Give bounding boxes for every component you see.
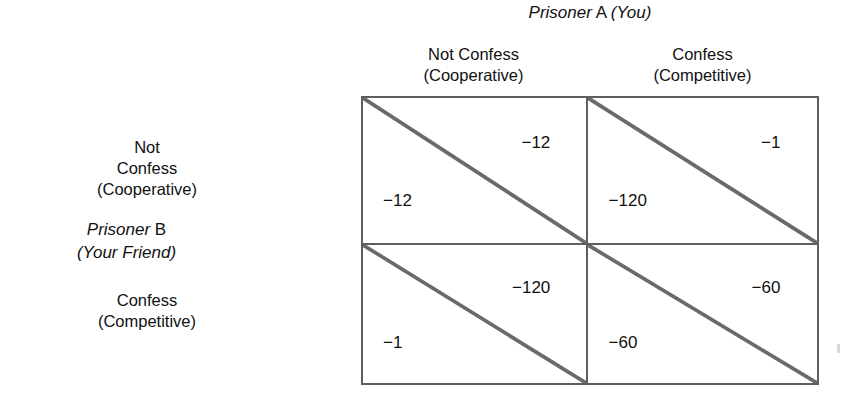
matrix-cell-notconfess-notconfess: −12 −12 [363,98,588,245]
payoff-value-column-player: −60 [752,278,781,298]
figure-canvas: Prisoner A (You) Not Confess (Cooperativ… [0,0,859,410]
column-header-confess: Confess (Competitive) [586,44,819,86]
payoff-value-row-player: −12 [383,191,412,211]
matrix-cell-confess-notconfess: −120 −1 [363,245,588,383]
column-header-0-line1: Not Confess [361,44,586,65]
payoff-value-row-player: −120 [609,191,647,211]
matrix-cell-notconfess-confess: −1 −120 [588,98,817,245]
column-player-title: Prisoner A (You) [361,2,819,24]
row-header-0-line3: (Cooperative) [42,179,252,200]
payoff-value-column-player: −12 [521,133,550,153]
row-player-qualifier: (Your Friend) [24,241,229,264]
cell-diagonal-divider [588,98,817,243]
column-player-letter: A [592,3,611,22]
row-header-0-line1: Not [42,137,252,158]
column-header-0-line2: (Cooperative) [361,65,586,86]
column-header-not-confess: Not Confess (Cooperative) [361,44,586,86]
payoff-value-row-player: −60 [609,333,638,353]
column-header-1-line1: Confess [586,44,819,65]
row-player-name: Prisoner [87,220,150,239]
matrix-cell-confess-confess: −60 −60 [588,245,817,383]
row-header-0-line2: Confess [42,158,252,179]
payoff-value-column-player: −120 [512,278,550,298]
payoff-value-row-player: −1 [383,333,402,353]
column-player-name: Prisoner [529,3,592,22]
column-player-qualifier: (You) [611,3,652,22]
scan-artifact-mark [837,344,840,353]
cell-diagonal-divider [363,245,586,383]
row-header-not-confess: Not Confess (Cooperative) [42,137,252,200]
payoff-matrix: −12 −12 −1 −120 −120 −1 −60 −60 [361,96,819,385]
row-player-title-line1: Prisoner B [24,218,229,241]
row-player-title: Prisoner B (Your Friend) [24,218,229,264]
payoff-value-column-player: −1 [761,133,780,153]
row-header-confess: Confess (Competitive) [42,290,252,332]
cell-diagonal-divider [363,98,586,243]
cell-diagonal-divider [588,245,817,383]
row-header-1-line2: Confess [42,290,252,311]
row-player-letter: B [150,220,166,239]
column-header-1-line2: (Competitive) [586,65,819,86]
row-header-1-line3: (Competitive) [42,311,252,332]
